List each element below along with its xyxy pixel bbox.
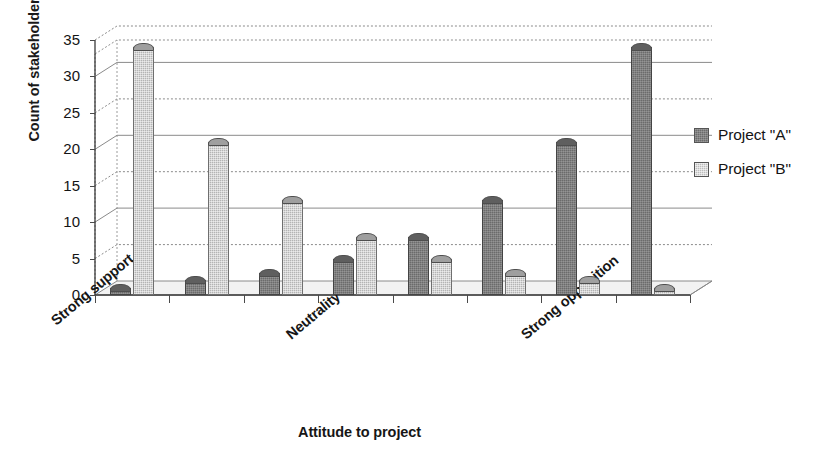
bar-top-cap [579, 276, 600, 284]
legend-swatch-icon [694, 128, 709, 143]
y-tick-label: 35 [0, 32, 80, 47]
legend-item-project-a: Project "A" [694, 118, 829, 152]
bar-top-cap [133, 43, 154, 51]
bar-top-cap [408, 233, 429, 241]
bar-project-b [208, 142, 229, 295]
bar-project-b [356, 237, 377, 295]
bar-top-cap [482, 196, 503, 204]
y-tick-label: 25 [0, 105, 80, 120]
legend-label: Project "A" [718, 126, 791, 144]
bar-top-cap [654, 284, 675, 292]
bar-top-cap [208, 138, 229, 146]
bar-project-b [579, 280, 600, 295]
legend-swatch-icon [694, 162, 709, 177]
bar-top-cap [356, 233, 377, 241]
y-tick-label: 15 [0, 178, 80, 193]
legend-label: Project "B" [718, 160, 791, 178]
y-tick-label: 20 [0, 141, 80, 156]
bar-project-a [556, 142, 577, 295]
bar-project-a [482, 200, 503, 295]
bar-top-cap [185, 276, 206, 284]
bar-face [282, 200, 303, 295]
bar-face [482, 200, 503, 295]
bar-top-cap [110, 284, 131, 292]
bar-project-b [505, 273, 526, 295]
bar-project-b [654, 288, 675, 295]
bar-top-cap [259, 269, 280, 277]
bar-face [556, 142, 577, 295]
y-tick-label: 10 [0, 214, 80, 229]
bar-face [133, 47, 154, 295]
legend-item-project-b: Project "B" [694, 152, 829, 186]
bar-project-a [408, 237, 429, 295]
bar-project-a [110, 288, 131, 295]
plot-area: 0 5 10 15 20 25 30 35 Strong support Neu… [0, 0, 829, 460]
bar-face [631, 47, 652, 295]
y-tick-label: 30 [0, 68, 80, 83]
bar-project-b [133, 47, 154, 295]
bar-top-cap [505, 269, 526, 277]
bar-face [333, 259, 354, 295]
bar-top-cap [631, 43, 652, 51]
bar-project-a [631, 47, 652, 295]
bar-top-cap [431, 255, 452, 263]
bar-top-cap [556, 138, 577, 146]
bar-face [431, 259, 452, 295]
bar-project-b [282, 200, 303, 295]
gridlines-and-walls [0, 0, 829, 460]
bar-top-cap [282, 196, 303, 204]
x-axis-title: Attitude to project [0, 424, 829, 440]
bar-project-b [431, 259, 452, 295]
bar-face [408, 237, 429, 295]
chart-figure: Count of stakeholders [0, 0, 829, 460]
y-tick-label: 5 [0, 251, 80, 266]
bar-face [208, 142, 229, 295]
bar-project-a [259, 273, 280, 295]
bar-face [356, 237, 377, 295]
bar-project-a [333, 259, 354, 295]
chart-legend: Project "A" Project "B" [694, 118, 829, 186]
bar-top-cap [333, 255, 354, 263]
bar-project-a [185, 280, 206, 295]
